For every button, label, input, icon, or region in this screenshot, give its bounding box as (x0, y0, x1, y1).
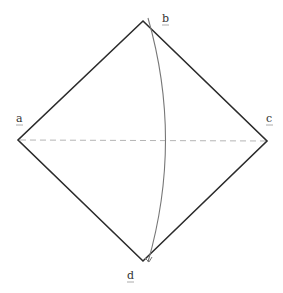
vertex-label-d: d (127, 269, 134, 282)
diagonal-ac (20, 140, 266, 141)
rhombus-diagram: b a c d (0, 0, 283, 293)
vertex-label-b: b (162, 12, 169, 25)
label-a: a (16, 112, 23, 125)
label-c: c (266, 112, 272, 125)
arc-bd (148, 18, 166, 262)
rhombus-outline (18, 21, 267, 261)
vertex-label-c: c (266, 112, 273, 125)
label-d: d (127, 269, 134, 282)
vertex-label-a: a (16, 112, 23, 125)
label-b: b (162, 12, 169, 25)
